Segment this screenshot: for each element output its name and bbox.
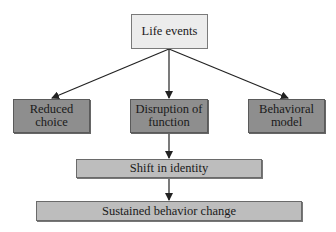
behavioral-model-node: Behavioral model <box>248 99 325 133</box>
behavioral-model-label: Behavioral model <box>259 103 314 129</box>
arrow-life-to-behavioral-model <box>169 49 288 98</box>
sustained-behavior-change-node: Sustained behavior change <box>36 201 302 221</box>
shift-in-identity-node: Shift in identity <box>76 159 262 178</box>
disruption-of-function-node: Disruption of function <box>130 99 208 133</box>
reduced-choice-node: Reduced choice <box>13 99 90 133</box>
life-events-label: Life events <box>142 25 198 38</box>
reduced-choice-label: Reduced choice <box>30 103 74 129</box>
life-events-node: Life events <box>131 14 208 49</box>
sustained-behavior-change-label: Sustained behavior change <box>102 205 236 218</box>
shift-in-identity-label: Shift in identity <box>130 162 208 175</box>
arrow-life-to-reduced-choice <box>52 49 169 98</box>
disruption-of-function-label: Disruption of function <box>135 103 202 129</box>
